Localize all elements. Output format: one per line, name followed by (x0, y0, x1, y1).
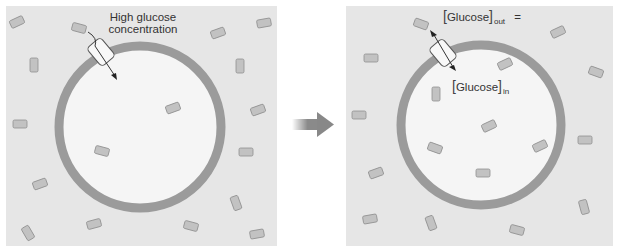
high-glucose-label: High glucose concentration (108, 11, 178, 35)
label-line-1: High glucose (108, 11, 178, 23)
out-subscript: out (494, 17, 505, 26)
diagram-canvas (0, 0, 618, 252)
right-panel (346, 6, 613, 246)
cell-membrane (59, 46, 221, 208)
glucose-out-label: [Glucose]out = (443, 10, 521, 25)
cell-membrane (401, 45, 561, 205)
left-panel (6, 6, 277, 246)
right-arrow-icon (292, 112, 334, 137)
glucose-out-text: Glucose (447, 11, 489, 23)
in-subscript: in (503, 87, 509, 96)
glucose-in-label: [Glucose]in (452, 80, 509, 95)
label-line-2: concentration (108, 23, 178, 35)
equals-sign: = (514, 11, 521, 23)
glucose-in-text: Glucose (456, 81, 498, 93)
